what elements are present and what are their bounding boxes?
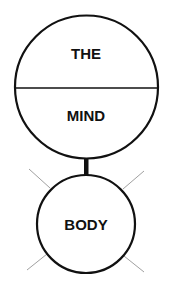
mind-circle-outline — [15, 16, 158, 159]
label-mind: MIND — [67, 107, 105, 124]
label-body: BODY — [64, 216, 107, 233]
label-the: THE — [71, 45, 101, 62]
ray-upper-left — [29, 169, 50, 188]
ray-lower-right — [124, 256, 144, 272]
ray-lower-left — [27, 254, 47, 270]
ray-upper-right — [123, 171, 144, 189]
body-circle: BODY — [37, 175, 135, 273]
mind-circle: THE MIND — [15, 16, 158, 159]
mind-body-diagram: THE MIND BODY — [0, 0, 173, 284]
